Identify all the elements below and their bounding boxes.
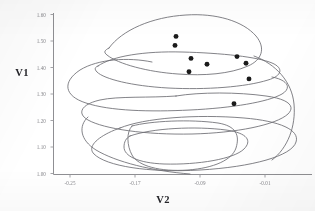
- contour-curve: [82, 117, 190, 174]
- y-tick-label: 1.10: [37, 144, 47, 150]
- contour-curve: [254, 56, 294, 160]
- data-point: [247, 76, 252, 81]
- y-tick-label: 1.60: [37, 12, 47, 18]
- data-point: [235, 54, 240, 59]
- y-tick-label: 1.50: [37, 38, 47, 44]
- data-point: [232, 101, 237, 106]
- x-tick-label: -0.17: [129, 180, 140, 186]
- y-axis-tick-labels: 1.60 1.50 1.40 1.30 1.20 1.10 1.00: [37, 12, 47, 177]
- y-tick-label: 1.20: [37, 118, 47, 124]
- data-point: [187, 69, 192, 74]
- contour-curve: [105, 15, 262, 75]
- x-axis-title: V2: [156, 194, 170, 205]
- contour-curve: [124, 128, 248, 164]
- data-point: [205, 62, 210, 67]
- plot-canvas: 1.60 1.50 1.40 1.30 1.20 1.10 1.00 -0.25…: [0, 0, 315, 211]
- scatter-plot-figure: 1.60 1.50 1.40 1.30 1.20 1.10 1.00 -0.25…: [0, 0, 315, 211]
- data-point: [189, 56, 194, 61]
- x-tick-label: -0.09: [194, 180, 205, 186]
- data-point: [173, 43, 178, 48]
- data-point: [244, 61, 249, 66]
- x-tick-label: -0.25: [64, 180, 75, 186]
- data-points: [173, 34, 252, 106]
- x-axis-tick-labels: -0.25 -0.17 -0.09 -0.01: [64, 180, 270, 186]
- contour-overlay: [68, 15, 297, 174]
- x-tick-label: -0.01: [259, 180, 270, 186]
- y-tick-label: 1.00: [37, 171, 47, 177]
- data-point: [174, 34, 179, 39]
- y-axis-title: V1: [15, 67, 29, 78]
- y-tick-label: 1.30: [37, 91, 47, 97]
- contour-curve: [68, 59, 288, 110]
- y-tick-label: 1.40: [37, 65, 47, 71]
